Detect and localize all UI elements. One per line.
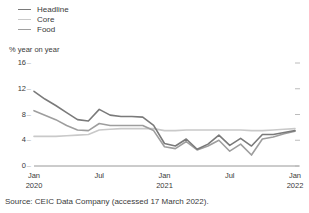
y-tick-label: 12 [18, 85, 26, 93]
legend-label-core: Core [37, 15, 54, 24]
legend-swatch-food [18, 29, 31, 30]
y-tick-label: 16 [18, 59, 26, 67]
legend-label-headline: Headline [37, 5, 69, 14]
x-tick-label: Jan2021 [156, 171, 173, 190]
legend-swatch-headline [18, 9, 31, 10]
y-tick-mark: – [27, 162, 31, 170]
x-tick-label-month: Jul [225, 171, 235, 181]
x-tick-label-year: 2022 [287, 181, 304, 191]
x-tick-label-month: Jan [287, 171, 304, 181]
x-tick-label-month: Jul [94, 171, 104, 181]
x-tick-label: Jul [225, 171, 235, 181]
x-tick-label: Jan2022 [287, 171, 304, 190]
legend-item-core: Core [18, 15, 178, 24]
y-tick-label: 8 [22, 111, 26, 119]
chart-svg [0, 57, 309, 172]
legend-label-food: Food [37, 25, 55, 34]
y-tick-label: 0 [22, 162, 26, 170]
y-axis-title: % year on year [9, 45, 59, 54]
y-tick-mark: – [27, 136, 31, 144]
chart-screenshot: Headline Core Food % year on year 0–4–8–… [0, 0, 309, 213]
plot-area [0, 57, 309, 172]
legend-swatch-core [18, 19, 31, 20]
legend-item-food: Food [18, 25, 178, 34]
x-axis-tick-labels: Jan2020JulJan2021JulJan2022 [0, 171, 309, 195]
y-tick-label: 4 [22, 136, 26, 144]
series-line-core [34, 129, 295, 137]
x-tick-label-year: 2021 [156, 181, 173, 191]
chart-legend: Headline Core Food [18, 5, 178, 35]
x-tick-label: Jan2020 [26, 171, 43, 190]
x-tick-label-year: 2020 [26, 181, 43, 191]
y-tick-mark: – [27, 111, 31, 119]
legend-item-headline: Headline [18, 5, 178, 14]
x-tick-label-month: Jan [26, 171, 43, 181]
source-note: Source: CEIC Data Company (accessed 17 M… [5, 197, 209, 206]
x-tick-label-month: Jan [156, 171, 173, 181]
series-line-headline [34, 91, 295, 149]
y-axis-tick-labels: 0–4–8–12–16– [0, 57, 34, 172]
y-tick-mark: – [27, 85, 31, 93]
y-tick-mark: – [27, 59, 31, 67]
x-tick-label: Jul [94, 171, 104, 181]
